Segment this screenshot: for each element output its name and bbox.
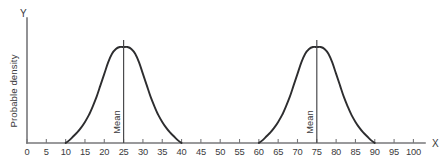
probability-density-figure: 0510152025303540455055606570758085909510… — [0, 0, 446, 163]
mean-label-right: Mean — [305, 110, 315, 133]
x-axis-tick-label: 50 — [215, 147, 225, 157]
x-axis-tick-label: 65 — [273, 147, 283, 157]
x-axis-tick-label: 0 — [25, 147, 30, 157]
x-axis-tick-marks — [27, 139, 413, 143]
x-axis-tick-label: 75 — [312, 147, 322, 157]
x-axis-tick-label: 70 — [293, 147, 303, 157]
x-axis-tick-label: 30 — [138, 147, 148, 157]
x-axis-tick-label: 60 — [254, 147, 264, 157]
x-axis-tick-label: 55 — [235, 147, 245, 157]
x-axis-tick-label: 10 — [61, 147, 71, 157]
y-axis-label: Probable density — [8, 54, 19, 127]
x-axis-tick-label: 85 — [350, 147, 360, 157]
x-axis-tick-label: 15 — [80, 147, 90, 157]
mean-label-left: Mean — [112, 110, 122, 133]
x-axis-tick-label: 90 — [370, 147, 380, 157]
x-axis-name: X — [432, 138, 439, 149]
y-axis-name: Y — [20, 8, 27, 19]
plot-canvas: 0510152025303540455055606570758085909510… — [0, 0, 446, 163]
x-axis-tick-label: 95 — [389, 147, 399, 157]
x-axis-tick-label: 25 — [119, 147, 129, 157]
x-axis-tick-label: 35 — [157, 147, 167, 157]
x-axis-tick-label: 45 — [196, 147, 206, 157]
x-axis-tick-labels: 0510152025303540455055606570758085909510… — [25, 147, 421, 157]
x-axis-tick-label: 40 — [177, 147, 187, 157]
x-axis-tick-label: 100 — [406, 147, 421, 157]
x-axis-tick-label: 80 — [331, 147, 341, 157]
x-axis-tick-label: 5 — [44, 147, 49, 157]
x-axis-tick-label: 20 — [99, 147, 109, 157]
